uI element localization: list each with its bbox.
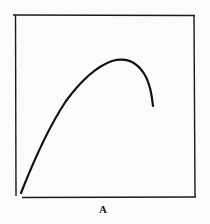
frame-left bbox=[16, 15, 17, 196]
x-axis-line bbox=[22, 197, 196, 198]
data-curve bbox=[21, 60, 153, 193]
frame-right bbox=[194, 15, 195, 197]
frame-top bbox=[13, 15, 195, 16]
figure-label: A bbox=[93, 202, 113, 216]
plot-area bbox=[0, 0, 210, 224]
figure: A bbox=[0, 0, 210, 224]
